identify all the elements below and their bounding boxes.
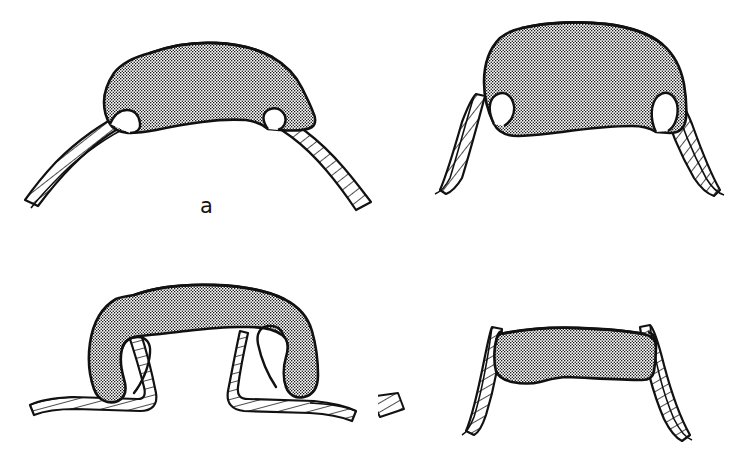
hatched-band-left-b: [440, 94, 485, 194]
stippled-mass-d: [494, 328, 656, 384]
panel-d: d: [378, 237, 755, 474]
panel-d-drawing: [378, 237, 755, 474]
attachment-notch-left-b: [490, 93, 514, 126]
panel-b-drawing: [378, 0, 755, 237]
panel-c-drawing: [0, 237, 377, 474]
panel-a-drawing: [0, 0, 377, 237]
panel-b: b: [378, 0, 755, 237]
attachment-notch-right-a: [264, 108, 286, 130]
panel-label-a: a: [200, 196, 213, 217]
panel-c: c: [0, 237, 377, 474]
figure-root: a b: [0, 0, 755, 474]
attachment-notch-right-b: [652, 93, 678, 132]
panel-a: a: [0, 0, 377, 237]
hatched-fragment-d: [378, 393, 404, 417]
